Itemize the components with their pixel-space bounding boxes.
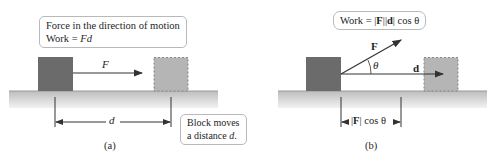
ground	[278, 91, 487, 108]
callout-title: Force in the direction of motion	[46, 19, 180, 32]
block-solid	[38, 57, 73, 91]
distance-label: d	[109, 114, 115, 126]
ground	[9, 91, 218, 108]
work-formula-callout: Work = |F||d| cos θ	[333, 11, 426, 30]
angle-label: θ	[373, 59, 378, 71]
caption-b: (b)	[365, 140, 377, 151]
panel-a: Force in the direction of motion Work = …	[0, 0, 246, 161]
work-formula: Work = Fd	[46, 32, 180, 45]
panel-b: Work = |F||d| cos θ F θ d |F| cos θ (b)	[243, 0, 493, 161]
displacement-label: d	[413, 62, 419, 74]
force-vector-label: F	[371, 40, 378, 52]
force-label: F	[102, 58, 109, 70]
projection-label: |F| cos θ	[351, 115, 386, 126]
block-solid	[306, 57, 341, 91]
block-ghost	[154, 58, 188, 92]
distance-note-callout: Block moves a distance d.	[180, 114, 247, 145]
work-definition-callout: Force in the direction of motion Work = …	[39, 16, 187, 48]
caption-a: (a)	[104, 140, 116, 151]
